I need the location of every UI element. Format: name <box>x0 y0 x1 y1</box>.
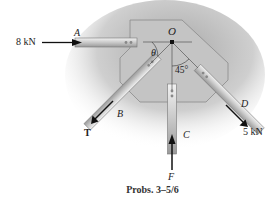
figure-caption: Probs. 3–5/6 <box>0 184 277 195</box>
member-a <box>75 38 137 47</box>
angle-45-label: 45° <box>175 66 188 76</box>
truss-joint-diagram: O A B C D 8 kN T F 5 kN θ 45° Probs. 3–5… <box>0 0 277 207</box>
force-t-label: T <box>84 128 91 138</box>
point-o-marker <box>170 40 174 44</box>
theta-angle-label: θ <box>151 48 156 58</box>
force-f-label: F <box>168 172 174 182</box>
member-b-label: B <box>117 109 123 119</box>
diagram-canvas <box>0 0 277 207</box>
force-8kn-label: 8 kN <box>16 37 36 47</box>
point-o-label: O <box>168 26 176 37</box>
member-a-label: A <box>74 28 80 38</box>
force-5kn-label: 5 kN <box>243 127 263 137</box>
member-c-label: C <box>183 130 190 140</box>
member-d-label: D <box>241 99 248 109</box>
